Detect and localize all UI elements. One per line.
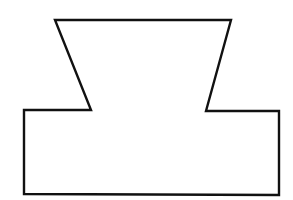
diagram-canvas <box>0 0 293 200</box>
trapezoid-on-rectangle-shape <box>24 20 279 195</box>
